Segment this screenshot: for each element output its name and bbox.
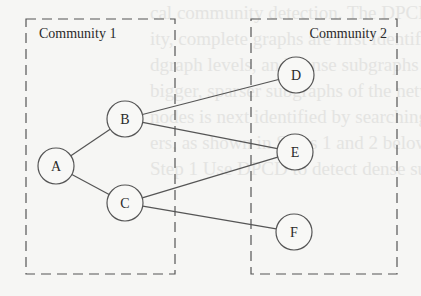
edge-B-E [143, 122, 278, 148]
edge-A-C [72, 175, 109, 195]
node-E: E [277, 134, 313, 170]
node-C: C [107, 185, 143, 221]
node-D: D [278, 57, 314, 93]
community-boxes: Community 1Community 2 [26, 19, 397, 274]
edge-C-E [142, 157, 278, 198]
node-label-C: C [120, 196, 129, 211]
graph-nodes: ABCDEF [38, 57, 314, 250]
edge-B-D [142, 79, 278, 114]
node-label-D: D [291, 68, 301, 83]
node-A: A [38, 148, 74, 184]
edge-A-B [71, 129, 110, 156]
node-label-B: B [120, 112, 129, 127]
community-1-box: Community 1 [26, 19, 175, 274]
node-label-F: F [290, 225, 298, 240]
node-B: B [107, 101, 143, 137]
community-2-box: Community 2 [251, 19, 397, 274]
node-label-E: E [291, 145, 300, 160]
edge-C-F [143, 206, 277, 229]
community-2-label: Community 2 [310, 26, 387, 41]
node-label-A: A [51, 159, 62, 174]
node-F: F [276, 214, 312, 250]
community-1-label: Community 1 [39, 26, 116, 41]
community-graph-diagram: Community 1Community 2 ABCDEF [0, 0, 421, 296]
